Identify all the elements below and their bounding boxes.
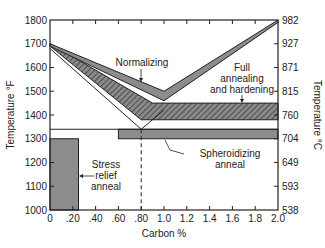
full-annealing-label-2: annealing bbox=[220, 73, 263, 84]
y-left-tick-label: 1600 bbox=[25, 62, 48, 73]
stress-relief-arrowhead bbox=[79, 174, 83, 178]
y-right-axis-title: Temperature °C bbox=[312, 80, 323, 150]
y-left-tick-label: 1100 bbox=[25, 181, 47, 192]
y-right-tick-label: 760 bbox=[282, 110, 299, 121]
x-tick-label: 1.0 bbox=[157, 213, 171, 224]
stress-relief-label-1: Stress bbox=[92, 159, 120, 170]
stress-relief-label-3: anneal bbox=[91, 181, 121, 192]
x-tick-label: 1.8 bbox=[248, 213, 262, 224]
x-tick-label: .60 bbox=[111, 213, 125, 224]
normalizing-label: Normalizing bbox=[116, 57, 169, 68]
y-left-tick-label: 1000 bbox=[25, 205, 48, 216]
y-right-tick-label: 649 bbox=[282, 157, 299, 168]
y-left-tick-label: 1700 bbox=[25, 38, 48, 49]
spheroidizing-region bbox=[118, 129, 278, 139]
stress-relief-region bbox=[50, 139, 79, 210]
y-right-tick-label: 815 bbox=[282, 86, 299, 97]
stress-relief-label-2: relief bbox=[95, 170, 117, 181]
y-right-tick-label: 538 bbox=[282, 205, 299, 216]
full-annealing-arrowhead bbox=[240, 99, 244, 103]
y-left-tick-label: 1200 bbox=[25, 157, 48, 168]
y-left-tick-label: 1500 bbox=[25, 86, 48, 97]
full-annealing-label-3: and hardening bbox=[210, 84, 274, 95]
spheroidizing-label-1: Spheroidizing bbox=[200, 148, 261, 159]
x-tick-label: .40 bbox=[89, 213, 103, 224]
x-tick-label: 1.4 bbox=[203, 213, 217, 224]
x-tick-label: .20 bbox=[66, 213, 80, 224]
y-left-axis-title: Temperature °F bbox=[5, 80, 16, 149]
chart: 0 .20 .40 .60 .80 1.0 1.2 1.4 1.6 1.8 2.… bbox=[0, 0, 325, 248]
x-tick-label: 0 bbox=[47, 213, 53, 224]
spheroidizing-arrow bbox=[165, 140, 184, 154]
y-left-tick-label: 1800 bbox=[25, 15, 48, 26]
x-tick-label: .80 bbox=[134, 213, 148, 224]
spheroidizing-label-2: anneal bbox=[215, 159, 245, 170]
x-axis-title: Carbon % bbox=[142, 228, 187, 239]
y-right-tick-label: 927 bbox=[282, 38, 299, 49]
y-left-tick-label: 1300 bbox=[25, 133, 48, 144]
y-right-tick-label: 593 bbox=[282, 181, 299, 192]
full-annealing-label-1: Full bbox=[234, 62, 250, 73]
y-right-tick-label: 871 bbox=[282, 62, 299, 73]
y-right-tick-label: 704 bbox=[282, 133, 299, 144]
y-right-tick-label: 982 bbox=[282, 15, 299, 26]
x-tick-label: 1.6 bbox=[225, 213, 239, 224]
x-tick-label: 1.2 bbox=[180, 213, 194, 224]
y-left-tick-label: 1400 bbox=[25, 110, 48, 121]
